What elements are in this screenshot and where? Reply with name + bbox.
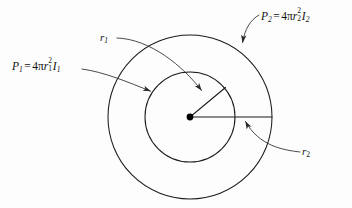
r2-leader-line [246,122,301,153]
power-outer-label: P2=4πr22I2 [261,9,309,23]
p1-intensity-subscript: 1 [57,65,61,74]
p2-equals: = [272,10,282,22]
p2-radius-subscript: 2 [297,15,301,23]
diagram-canvas [0,0,352,208]
p1-symbol: P [12,60,19,72]
center-dot [187,114,194,121]
p1-radius-subscript: 1 [48,65,52,73]
p2-radius-exponent: 2 [297,7,301,15]
inner-radius-label: r1 [100,32,108,44]
p1-radius-indices: 21 [48,59,53,70]
p2-radius-indices: 22 [297,9,302,20]
r2-subscript: 2 [306,150,310,159]
inner-radius-line [190,88,226,118]
p2-intensity-subscript: 2 [306,15,310,24]
power-inner-label: P1=4πr21I1 [12,59,60,73]
p2-symbol: P [261,10,268,22]
p2-leader-line [243,15,259,43]
r1-subscript: 1 [104,36,108,45]
p1-equals: = [23,60,33,72]
p1-radius-exponent: 2 [48,57,52,65]
outer-radius-label: r2 [302,146,310,158]
figure-root: P2=4πr22I2 P1=4πr21I1 r1 r2 [0,0,352,208]
